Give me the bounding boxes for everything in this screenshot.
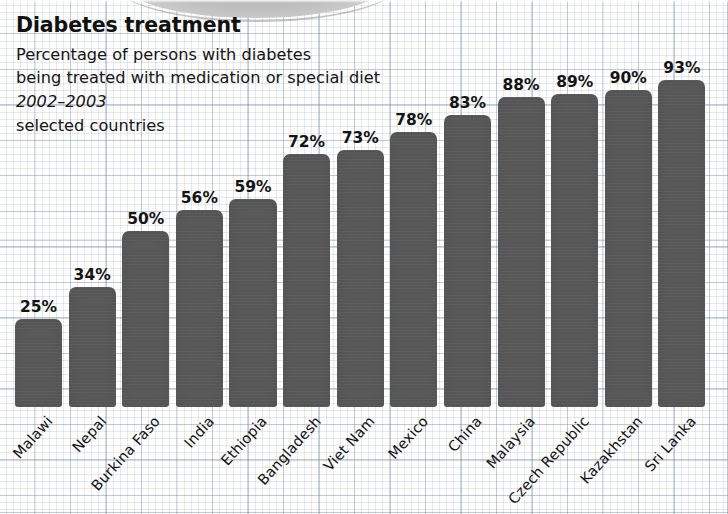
- bar-value-label: 59%: [234, 178, 271, 196]
- category-label: Sri Lanka: [642, 413, 700, 474]
- bar-value-label: 89%: [556, 73, 593, 91]
- bar[interactable]: [122, 231, 169, 407]
- bar-group: 90%: [605, 64, 652, 407]
- bar-group: 56%: [176, 184, 223, 407]
- bar-group: 50%: [122, 205, 169, 407]
- category-label: Ethiopia: [218, 413, 270, 468]
- bar-value-label: 90%: [610, 69, 647, 87]
- bar-value-label: 83%: [449, 94, 486, 112]
- category-label: Nepal: [69, 413, 109, 455]
- bar-group: 59%: [229, 173, 276, 407]
- category-label: China: [445, 413, 485, 455]
- bar[interactable]: [498, 97, 545, 407]
- category-label: Viet Nam: [321, 413, 378, 474]
- bar-group: 93%: [658, 54, 705, 407]
- bar-group: 88%: [498, 71, 545, 407]
- bar-group: 34%: [69, 261, 116, 407]
- bar-group: 78%: [390, 106, 437, 407]
- bar-value-label: 88%: [503, 76, 540, 94]
- bar[interactable]: [337, 150, 384, 407]
- bar-value-label: 93%: [663, 59, 700, 77]
- bar[interactable]: [605, 90, 652, 407]
- category-label: Mexico: [385, 413, 431, 462]
- bar[interactable]: [658, 80, 705, 407]
- bar-value-label: 34%: [74, 266, 111, 284]
- bar-group: 89%: [551, 68, 598, 407]
- bar[interactable]: [390, 132, 437, 407]
- bar-value-label: 25%: [20, 298, 57, 316]
- bar[interactable]: [15, 319, 62, 407]
- chart-page: Diabetes treatment Percentage of persons…: [0, 0, 728, 514]
- bar-group: 25%: [15, 293, 62, 407]
- bar[interactable]: [176, 210, 223, 407]
- chart-subtitle-line-1: Percentage of persons with diabetes: [16, 43, 380, 66]
- category-label: Malaysia: [484, 413, 539, 472]
- bar-value-label: 78%: [395, 111, 432, 129]
- bar[interactable]: [444, 115, 491, 407]
- bar[interactable]: [283, 154, 330, 407]
- bar-value-label: 56%: [181, 189, 218, 207]
- chart-note: selected countries: [16, 114, 380, 137]
- chart-subtitle-line-2: being treated with medication or special…: [16, 66, 380, 89]
- bar[interactable]: [69, 287, 116, 407]
- chart-period: 2002–2003: [16, 90, 380, 113]
- category-label: India: [181, 413, 217, 451]
- bar-group: 83%: [444, 89, 491, 407]
- page-title: Diabetes treatment: [16, 14, 380, 38]
- bar[interactable]: [551, 94, 598, 407]
- chart-header: Diabetes treatment Percentage of persons…: [16, 14, 380, 137]
- bar-group: 72%: [283, 128, 330, 407]
- category-label: Malawi: [10, 413, 56, 462]
- bar-group: 73%: [337, 124, 384, 407]
- bar[interactable]: [229, 199, 276, 407]
- bar-value-label: 50%: [127, 210, 164, 228]
